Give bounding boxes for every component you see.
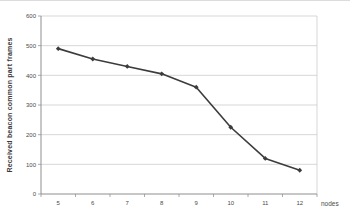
x-tick-label: 5 [57,200,61,206]
series-line [58,49,300,171]
data-point-marker [90,57,95,62]
x-axis-label: nodes [321,200,339,207]
data-point-marker [125,64,130,69]
line-chart-figure: 010020030040050060056789101112 Received … [0,0,350,223]
y-tick-label: 100 [26,162,37,168]
plot-area: 010020030040050060056789101112 [0,1,350,223]
x-tick-label: 11 [262,200,269,206]
x-tick-label: 6 [91,200,95,206]
x-tick-label: 12 [296,200,303,206]
y-tick-label: 500 [26,43,37,49]
x-tick-label: 10 [227,200,234,206]
y-tick-label: 600 [26,13,37,19]
y-tick-label: 200 [26,132,37,138]
data-point-marker [297,168,302,173]
x-tick-label: 9 [195,200,199,206]
data-point-marker [56,46,61,51]
y-tick-label: 300 [26,102,37,108]
x-tick-label: 7 [126,200,130,206]
y-axis-title: Received beacon common part frames [6,37,13,172]
y-tick-label: 0 [33,191,37,197]
x-tick-label: 8 [160,200,164,206]
y-tick-label: 400 [26,73,37,79]
